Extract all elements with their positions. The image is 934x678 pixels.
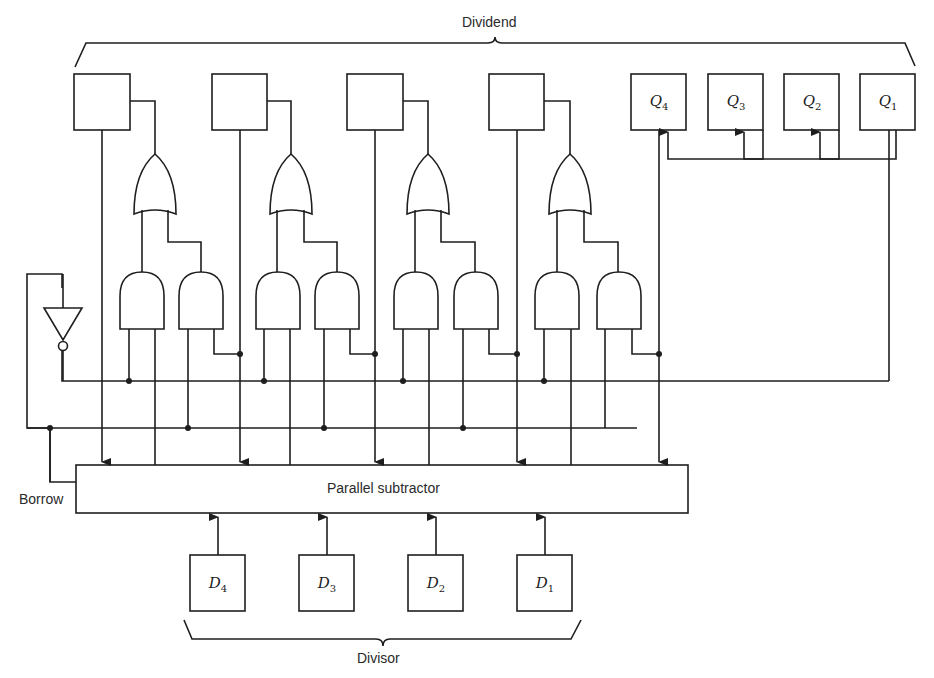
control-bus	[62, 349, 889, 381]
q3-label: Q3	[708, 92, 764, 112]
bit-slice-1	[517, 101, 659, 465]
bit-slice-2	[375, 101, 517, 465]
dividend-register-3	[212, 74, 267, 130]
bit-slice-3	[240, 101, 375, 465]
borrow-bus	[27, 274, 76, 482]
dividend-register-4	[74, 74, 130, 130]
subtractor-label: Parallel subtractor	[327, 480, 440, 496]
divisor-label: Divisor	[357, 650, 400, 666]
d3-label: D3	[299, 574, 355, 594]
junction-dots	[47, 351, 662, 431]
q1-label: Q1	[860, 92, 916, 112]
bit-slice-4	[102, 101, 240, 465]
dividend-label: Dividend	[462, 14, 516, 30]
dividend-register-2	[347, 74, 403, 130]
d4-label: D4	[190, 574, 246, 594]
dividend-brace	[75, 37, 915, 67]
dividend-register-1	[489, 74, 544, 130]
borrow-label: Borrow	[19, 491, 63, 507]
not-gate	[44, 308, 82, 340]
q4-label: Q4	[631, 92, 687, 112]
divisor-brace	[184, 620, 581, 646]
d1-label: D1	[517, 574, 573, 594]
d2-label: D2	[408, 574, 464, 594]
q2-label: Q2	[784, 92, 840, 112]
